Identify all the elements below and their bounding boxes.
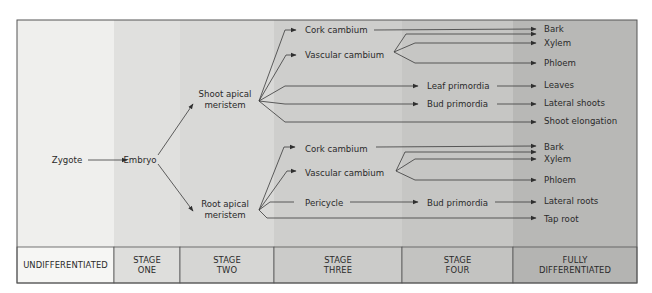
- stage-label-stage-two: TWO: [216, 265, 238, 275]
- node-root-vascular-cambium: Vascular cambium: [305, 168, 384, 178]
- node-pericycle: Pericycle: [305, 198, 343, 208]
- node-root-bud-primordia: Bud primordia: [427, 198, 488, 208]
- node-lateral-roots: Lateral roots: [544, 196, 599, 206]
- column-band-undifferentiated: [17, 20, 114, 247]
- stage-label-fully-differentiated: FULLY: [563, 255, 589, 265]
- stage-label-stage-four: FOUR: [446, 265, 470, 275]
- column-band-stage-one: [114, 20, 180, 247]
- stage-label-stage-two: STAGE: [213, 255, 241, 265]
- node-root-phloem: Phloem: [544, 175, 576, 185]
- stage-label-stage-four: STAGE: [444, 255, 472, 265]
- node-shoot-vascular-cambium: Vascular cambium: [305, 50, 384, 60]
- stage-label-stage-three: STAGE: [324, 255, 352, 265]
- stage-label-stage-one: ONE: [138, 265, 156, 275]
- node-root-xylem: Xylem: [544, 154, 571, 164]
- node-shoot-phloem: Phloem: [544, 58, 576, 68]
- node-root-cork-cambium: Cork cambium: [305, 144, 368, 154]
- node-shoot-apical-meristem: Shoot apical: [198, 89, 251, 99]
- stage-header-row: UNDIFFERENTIATEDSTAGEONESTAGETWOSTAGETHR…: [17, 247, 637, 283]
- node-root-apical-meristem: meristem: [204, 210, 245, 220]
- node-leaves: Leaves: [544, 80, 575, 90]
- column-band-stage-four: [402, 20, 513, 247]
- node-lateral-shoots: Lateral shoots: [544, 98, 605, 108]
- node-zygote: Zygote: [52, 155, 82, 165]
- plant-differentiation-diagram: UNDIFFERENTIATEDSTAGEONESTAGETWOSTAGETHR…: [0, 0, 652, 293]
- node-leaf-primordia: Leaf primordia: [427, 81, 489, 91]
- node-shoot-cork-cambium: Cork cambium: [305, 25, 368, 35]
- stage-label-stage-one: STAGE: [133, 255, 161, 265]
- node-shoot-elongation: Shoot elongation: [544, 116, 617, 126]
- stage-label-fully-differentiated: DIFFERENTIATED: [539, 265, 611, 275]
- node-root-bark: Bark: [544, 142, 564, 152]
- node-tap-root: Tap root: [543, 214, 579, 224]
- stage-label-undifferentiated: UNDIFFERENTIATED: [23, 260, 108, 270]
- node-shoot-xylem: Xylem: [544, 38, 571, 48]
- node-embryo: Embryo: [123, 155, 156, 165]
- node-shoot-apical-meristem: meristem: [204, 100, 245, 110]
- node-root-apical-meristem: Root apical: [201, 199, 249, 209]
- stage-label-stage-three: THREE: [323, 265, 352, 275]
- node-shoot-bud-primordia: Bud primordia: [427, 99, 488, 109]
- column-band-fully-differentiated: [513, 20, 637, 247]
- node-shoot-bark: Bark: [544, 24, 564, 34]
